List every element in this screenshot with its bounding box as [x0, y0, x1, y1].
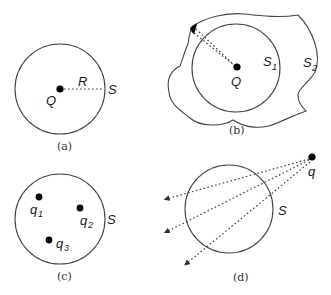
- inner-surface-label: S: [263, 54, 272, 69]
- gauss-law-figure: Q R S (a) Q S 1 S 2 (b) q 1 q 2 q 3 S (c…: [0, 0, 331, 295]
- gaussian-surface-s: [185, 165, 273, 253]
- charge-q-dot: [56, 85, 63, 92]
- surface-label: S: [278, 203, 287, 218]
- charge-label: Q: [46, 93, 56, 108]
- caption-d: (d): [233, 271, 249, 284]
- charge-q1-label: q: [30, 202, 38, 217]
- caption-b: (b): [229, 124, 245, 137]
- charge-q3-label: q: [56, 236, 64, 251]
- charge-q3-dot: [46, 237, 53, 244]
- charge-q2-subscript: 2: [87, 220, 93, 230]
- panel-d: q S (d): [166, 153, 316, 284]
- caption-a: (a): [57, 140, 72, 153]
- charge-q-dot: [233, 63, 240, 70]
- charge-q3-subscript: 3: [64, 243, 69, 253]
- panel-c: q 1 q 2 q 3 S (c): [15, 174, 116, 283]
- charge-q2-dot: [77, 205, 84, 212]
- caption-c: (c): [57, 270, 72, 283]
- surface-label: S: [107, 212, 116, 227]
- charge-q1-subscript: 1: [38, 209, 43, 219]
- flux-patch: [190, 24, 197, 34]
- flux-line-1: [196, 29, 235, 66]
- irregular-surface-s2: [168, 14, 317, 128]
- charge-q2-label: q: [80, 213, 88, 228]
- radius-label: R: [78, 74, 87, 89]
- flux-line-2: [194, 33, 235, 66]
- charge-label: Q: [231, 74, 241, 89]
- inner-surface-subscript: 1: [272, 62, 277, 72]
- charge-label: q: [308, 164, 316, 179]
- panel-b: Q S 1 S 2 (b): [168, 14, 317, 137]
- panel-a: Q R S (a): [15, 44, 117, 153]
- outer-surface-label: S: [303, 55, 312, 70]
- charge-q1-dot: [36, 194, 43, 201]
- surface-label: S: [108, 82, 117, 97]
- charge-q-dot: [308, 153, 315, 160]
- outer-surface-subscript: 2: [311, 63, 317, 73]
